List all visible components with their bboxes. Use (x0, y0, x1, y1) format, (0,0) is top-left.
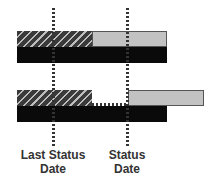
status-date-label-line2: Date (97, 162, 157, 176)
row2-baseline-bar (17, 106, 167, 122)
row1-remaining-bar (92, 31, 167, 47)
status-date-line (126, 8, 129, 146)
status-date-label-line1: Status (97, 148, 157, 162)
last-status-date-label: Last Status Date (13, 148, 93, 176)
last-status-date-line (52, 8, 55, 146)
row1-baseline-bar (17, 47, 167, 63)
last-status-date-label-line2: Date (13, 162, 93, 176)
row2-remaining-bar (128, 90, 204, 106)
status-date-label: Status Date (97, 148, 157, 176)
last-status-date-label-line1: Last Status (13, 148, 93, 162)
